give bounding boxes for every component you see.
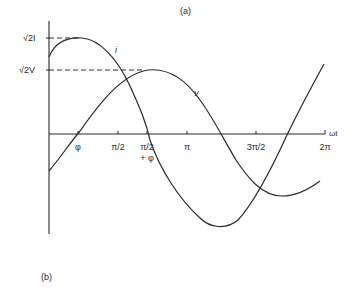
tick-label-two-pi: 2π <box>319 142 330 152</box>
tick-label-three-pi-half: 3π/2 <box>247 142 266 152</box>
voltage-peak-label: √2V <box>19 65 35 75</box>
panel-label-b: (b) <box>41 272 52 282</box>
panel-label-a: (a) <box>180 6 191 16</box>
waveform-diagram <box>0 0 355 288</box>
voltage-curve <box>49 70 320 196</box>
voltage-curve-label: v <box>194 88 199 98</box>
x-axis-label: ωt <box>329 129 337 139</box>
current-peak-label: √2I <box>23 33 35 43</box>
tick-label-pi: π <box>184 142 190 152</box>
tick-label-pi-half-plus-phi-bottom: + φ <box>140 153 154 163</box>
current-curve-label: i <box>115 45 117 55</box>
tick-label-phi: φ <box>75 142 81 152</box>
tick-label-pi-half-plus-phi-top: π/2 <box>140 142 154 152</box>
tick-label-pi-half: π/2 <box>111 142 125 152</box>
